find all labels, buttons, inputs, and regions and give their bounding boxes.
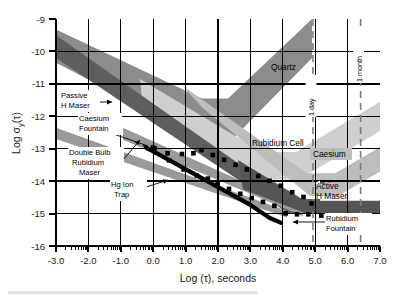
- band-label-caesium: Caesium: [313, 149, 346, 159]
- band-label-rubidium-cell: Rubidium Cell: [252, 138, 304, 148]
- ytick-label--15: -15: [31, 208, 45, 219]
- y-axis-title-prefix: Log σ: [10, 126, 22, 153]
- band-label-double-bulb-line2: Rubidium: [72, 158, 104, 167]
- band-label-passive-h-maser-line1: Passive: [61, 91, 88, 100]
- xtick-label-2: 2.0: [211, 255, 224, 266]
- xtick-label-3: 3.0: [244, 255, 257, 266]
- ytick-label--13: -13: [31, 143, 45, 154]
- x-axis-title: Log (τ), seconds: [180, 272, 257, 284]
- allan-deviation-chart: 1 day 1 month: [0, 0, 403, 298]
- xtick-label--2: -2.0: [80, 255, 96, 266]
- xtick-label--3: -3.0: [48, 255, 64, 266]
- band-label-rubidium-fountain-line1: Rubidium: [326, 214, 358, 223]
- ytick-label--16: -16: [31, 241, 45, 252]
- band-label-rubidium-fountain-line2: Fountain: [326, 224, 356, 233]
- ytick-label--10: -10: [31, 46, 45, 57]
- band-label-double-bulb-line1: Double Bulb: [69, 148, 110, 157]
- band-label-caesium-fountain-line1: Caesium: [79, 114, 109, 123]
- band-label-active-h-maser-line1: Active: [316, 181, 339, 191]
- band-label-double-bulb-line3: Maser: [79, 168, 101, 177]
- band-label-active-h-maser-line2: H Maser: [316, 191, 348, 201]
- marker-label-1-day: 1 day: [307, 98, 316, 116]
- xtick-label-6: 6.0: [341, 255, 354, 266]
- xtick-label-0: 0.0: [147, 255, 160, 266]
- caption-strip: [8, 291, 258, 294]
- marker-label-1-month: 1 month: [355, 56, 364, 82]
- xtick-label--1: -1.0: [113, 255, 129, 266]
- band-label-hg-ion-trap-line2: Trap: [114, 190, 129, 199]
- xtick-label-5: 5.0: [309, 255, 322, 266]
- ytick-label--14: -14: [31, 176, 45, 187]
- xtick-label-7: 7.0: [373, 255, 386, 266]
- ytick-label--12: -12: [31, 111, 45, 122]
- ytick-label--11: -11: [32, 78, 45, 89]
- ytick-label--9: -9: [37, 14, 45, 25]
- band-label-hg-ion-trap-line1: Hg Ion: [111, 180, 133, 189]
- y-axis-title-suffix: (τ): [10, 112, 22, 123]
- band-label-passive-h-maser-line2: H Maser: [61, 101, 90, 110]
- band-label-caesium-fountain-line2: Fountain: [79, 124, 109, 133]
- xtick-label-4: 4.0: [276, 255, 289, 266]
- band-label-quartz: Quartz: [271, 62, 296, 72]
- chart-canvas: 1 day 1 month: [0, 0, 403, 298]
- xtick-label-1: 1.0: [179, 255, 192, 266]
